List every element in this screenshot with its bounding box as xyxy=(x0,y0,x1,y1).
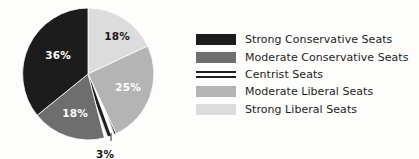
legend-item-strong-conservative: Strong Conservative Seats xyxy=(196,31,416,48)
pie-label-centrist: 3% xyxy=(96,148,114,159)
pie-label-strong-conservative: 36% xyxy=(45,49,71,61)
legend-label-moderate-conservative: Moderate Conservative Seats xyxy=(245,51,409,64)
pie-chart-figure: 18% 25% 18% 36% 3% Strong Conservative S… xyxy=(0,0,419,159)
pie-label-strong-liberal: 18% xyxy=(104,30,130,42)
legend-swatch-centrist xyxy=(196,69,236,80)
pie-label-moderate-liberal: 25% xyxy=(115,81,141,93)
legend-swatch-moderate-liberal xyxy=(196,86,236,97)
pie-svg: 18% 25% 18% 36% xyxy=(12,7,166,141)
legend-item-moderate-liberal: Moderate Liberal Seats xyxy=(196,83,416,100)
pie-chart-graphic: 18% 25% 18% 36% 3% xyxy=(12,7,166,141)
legend-label-centrist: Centrist Seats xyxy=(245,68,323,81)
pie-label-moderate-conservative: 18% xyxy=(62,107,88,119)
legend-swatch-moderate-conservative xyxy=(196,52,236,63)
legend-item-moderate-conservative: Moderate Conservative Seats xyxy=(196,48,416,65)
chart-legend: Strong Conservative Seats Moderate Conse… xyxy=(196,31,416,118)
legend-label-moderate-liberal: Moderate Liberal Seats xyxy=(245,85,373,98)
legend-swatch-strong-conservative xyxy=(196,34,236,45)
legend-item-strong-liberal: Strong Liberal Seats xyxy=(196,101,416,118)
legend-swatch-strong-liberal xyxy=(196,104,236,115)
legend-item-centrist: Centrist Seats xyxy=(196,66,416,83)
legend-label-strong-liberal: Strong Liberal Seats xyxy=(245,103,357,116)
legend-label-strong-conservative: Strong Conservative Seats xyxy=(245,33,392,46)
